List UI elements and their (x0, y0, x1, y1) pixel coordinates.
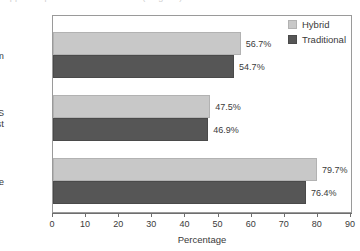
grouped-bar-chart: 56.7%54.7%47.5%46.9%79.7%76.4% Final exa… (0, 0, 360, 251)
x-tick (52, 213, 53, 217)
x-tick (218, 213, 219, 217)
x-tick (317, 213, 318, 217)
x-tick-label: 20 (113, 219, 123, 229)
x-tick-label: 10 (80, 219, 90, 229)
x-tick (118, 213, 119, 217)
category-label-final-exam: Final exam (0, 50, 4, 61)
bar-value-label: 76.4% (311, 188, 337, 198)
x-tick (151, 213, 152, 217)
category-label-caos-posttest: CAOS posttest (0, 107, 4, 129)
bar-traditional-pass-rate (53, 181, 306, 204)
bar-traditional-caos-posttest (53, 118, 208, 141)
x-tick-label: 40 (179, 219, 189, 229)
legend-label-traditional: Traditional (302, 34, 346, 45)
x-tick-label: 0 (49, 219, 54, 229)
x-tick-label: 60 (246, 219, 256, 229)
bar-value-label: 54.7% (239, 62, 265, 72)
bar-value-label: 47.5% (215, 102, 241, 112)
legend-item-hybrid: Hybrid (288, 18, 346, 31)
bar-hybrid-caos-posttest (53, 95, 210, 118)
x-tick (284, 213, 285, 217)
x-tick-label: 50 (213, 219, 223, 229)
x-tick-label: 70 (279, 219, 289, 229)
legend: Hybrid Traditional (288, 18, 346, 48)
bar-group: 47.5%46.9% (53, 95, 351, 141)
x-axis-title: Percentage (52, 234, 352, 245)
x-axis-line (52, 213, 352, 214)
x-tick (251, 213, 252, 217)
bar-group: 79.7%76.4% (53, 158, 351, 204)
bar-traditional-final-exam (53, 55, 234, 78)
legend-swatch-hybrid (288, 20, 297, 29)
x-tick (85, 213, 86, 217)
bar-hybrid-pass-rate (53, 158, 317, 181)
legend-label-hybrid: Hybrid (302, 19, 329, 30)
x-tick-label: 30 (146, 219, 156, 229)
bar-value-label: 79.7% (322, 165, 348, 175)
bar-hybrid-final-exam (53, 32, 241, 55)
x-tick-label: 80 (312, 219, 322, 229)
x-tick (184, 213, 185, 217)
legend-item-traditional: Traditional (288, 33, 346, 46)
x-tick (350, 213, 351, 217)
bar-value-label: 46.9% (213, 125, 239, 135)
x-tick-label: 90 (345, 219, 355, 229)
legend-swatch-traditional (288, 35, 297, 44)
category-label-pass-rate: Pass rate (0, 176, 4, 187)
bar-value-label: 56.7% (246, 39, 272, 49)
